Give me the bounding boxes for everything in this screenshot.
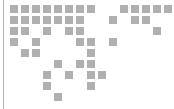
map-dot — [87, 5, 95, 13]
map-dot — [131, 16, 139, 24]
map-dot — [54, 93, 62, 101]
map-dot — [32, 49, 40, 57]
map-dot — [153, 27, 161, 35]
map-dot — [65, 71, 73, 79]
map-dot — [76, 60, 84, 68]
map-dot — [87, 60, 95, 68]
map-dot — [87, 49, 95, 57]
map-dot — [10, 27, 18, 35]
map-dot — [10, 16, 18, 24]
map-dot — [32, 38, 40, 46]
map-dot — [87, 38, 95, 46]
map-dot — [153, 5, 161, 13]
map-dot — [87, 71, 95, 79]
map-dot — [32, 16, 40, 24]
map-dot — [98, 71, 106, 79]
map-dot — [65, 5, 73, 13]
map-dot — [54, 16, 62, 24]
map-dot — [43, 82, 51, 90]
map-dot — [142, 5, 150, 13]
map-dot — [43, 5, 51, 13]
map-dot — [142, 16, 150, 24]
world-map-dot-grid — [0, 0, 174, 109]
map-dot — [76, 38, 84, 46]
map-dot — [21, 49, 29, 57]
map-dot — [109, 38, 117, 46]
map-dot — [76, 16, 84, 24]
map-dot — [76, 5, 84, 13]
map-dot — [65, 27, 73, 35]
map-dot — [43, 71, 51, 79]
map-dot — [76, 27, 84, 35]
map-dot — [10, 5, 18, 13]
map-dot — [21, 5, 29, 13]
map-dot — [87, 82, 95, 90]
map-dot — [21, 27, 29, 35]
map-dot — [131, 5, 139, 13]
map-dot — [164, 5, 172, 13]
map-dot — [120, 5, 128, 13]
map-dot — [32, 5, 40, 13]
map-dot — [43, 16, 51, 24]
map-dot — [109, 16, 117, 24]
map-dot — [54, 60, 62, 68]
map-dot — [10, 38, 18, 46]
map-dot — [21, 16, 29, 24]
map-dot — [65, 16, 73, 24]
map-dot — [54, 5, 62, 13]
logo-canvas — [0, 0, 174, 109]
map-dot — [43, 27, 51, 35]
